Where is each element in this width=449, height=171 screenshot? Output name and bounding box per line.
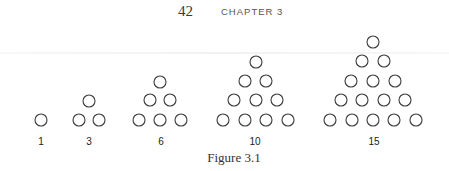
triangle-count-label: 10 <box>249 136 261 147</box>
dot-circle-icon <box>133 114 145 126</box>
dot-circle-icon <box>93 114 105 126</box>
dot-circle-icon <box>378 55 390 67</box>
dot-circle-icon <box>239 114 251 126</box>
dot-circle-icon <box>260 114 272 126</box>
dot-circle-icon <box>346 114 358 126</box>
triangle-count-label: 1 <box>38 136 44 147</box>
dot-circle-icon <box>356 55 368 67</box>
dot-circle-icon <box>154 114 166 126</box>
dot-circle-icon <box>164 94 176 106</box>
dot-circle-icon <box>410 114 422 126</box>
dot-circle-icon <box>388 114 400 126</box>
dot-circle-icon <box>144 94 156 106</box>
dot-circle-icon <box>260 75 272 87</box>
dot-circle-icon <box>73 114 85 126</box>
dot-circle-icon <box>154 76 166 88</box>
dot-circle-icon <box>335 94 347 106</box>
triangle-group-1: 1 <box>35 114 47 147</box>
dot-circle-icon <box>35 114 47 126</box>
dot-circle-icon <box>175 114 187 126</box>
dot-circle-icon <box>345 75 357 87</box>
dot-circle-icon <box>239 75 251 87</box>
dot-circle-icon <box>271 94 283 106</box>
figure-caption: Figure 3.1 <box>0 150 449 166</box>
dot-circle-icon <box>83 95 95 107</box>
dot-circle-icon <box>228 94 240 106</box>
dot-circle-icon <box>389 75 401 87</box>
dot-circle-icon <box>324 114 336 126</box>
dot-circle-icon <box>282 114 294 126</box>
triangular-numbers-figure: 1361015 <box>0 0 449 171</box>
triangle-count-label: 6 <box>158 136 164 147</box>
triangle-group-3: 3 <box>73 95 105 147</box>
dot-circle-icon <box>217 114 229 126</box>
dot-circle-icon <box>399 94 411 106</box>
triangle-group-10: 10 <box>217 56 294 147</box>
dot-circle-icon <box>367 36 379 48</box>
triangle-count-label: 3 <box>86 136 92 147</box>
triangle-count-label: 15 <box>368 136 380 147</box>
triangle-group-6: 6 <box>133 76 187 147</box>
dot-circle-icon <box>356 94 368 106</box>
dot-circle-icon <box>367 75 379 87</box>
book-page: 42 CHAPTER 3 1361015 Figure 3.1 <box>0 0 449 171</box>
dot-circle-icon <box>250 94 262 106</box>
triangle-group-15: 15 <box>324 36 422 147</box>
dot-circle-icon <box>378 94 390 106</box>
dot-circle-icon <box>250 56 262 68</box>
dot-circle-icon <box>367 114 379 126</box>
